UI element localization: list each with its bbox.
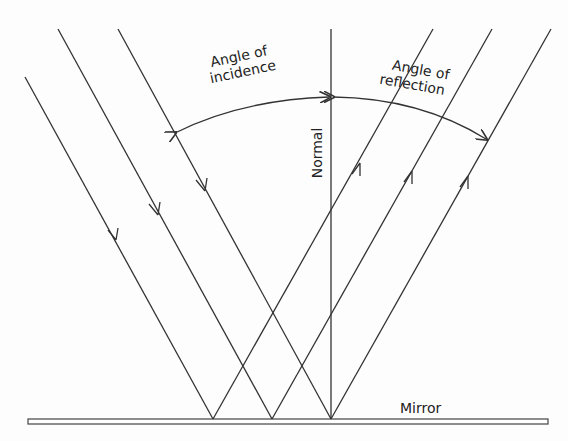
incident-rays [25, 29, 331, 419]
mirror-label: Mirror [400, 400, 441, 416]
reflection-diagram: Angle of incidence Angle of reflection N… [0, 0, 568, 441]
reflected-rays [213, 29, 551, 419]
diagram-graphics [0, 0, 568, 441]
reflection-arc [333, 97, 486, 139]
normal-label: Normal [309, 128, 325, 179]
incidence-arc [175, 97, 329, 133]
mirror [28, 419, 548, 424]
